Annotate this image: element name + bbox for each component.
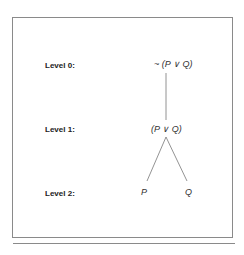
level-2-node-q: Q (185, 187, 192, 197)
tree-edges (0, 0, 244, 255)
level-2-label: Level 2: (45, 189, 75, 198)
edge-level1-p (147, 137, 166, 181)
level-2-node-p: P (141, 187, 147, 197)
level-1-label: Level 1: (45, 125, 75, 134)
level-1-node: (P ∨ Q) (151, 124, 182, 134)
level-0-node: ~ (P ∨ Q) (154, 59, 192, 69)
edge-level1-q (166, 137, 187, 181)
level-0-label: Level 0: (45, 61, 75, 70)
